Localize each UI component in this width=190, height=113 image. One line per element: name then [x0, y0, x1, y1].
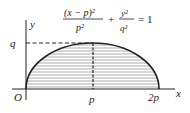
equation-equals-one: = 1	[138, 13, 152, 25]
equation-plus: +	[108, 13, 114, 25]
ellipse-area-diagram: y x O q p 2p (x − p)² p² + y² q² = 1	[0, 0, 190, 113]
equation-denominator-1: p²	[75, 22, 85, 33]
equation-numerator-1: (x − p)²	[64, 7, 96, 19]
equation-denominator-2: q²	[120, 23, 128, 33]
q-label: q	[10, 37, 16, 49]
hatched-region	[20, 45, 170, 87]
x-axis-label: x	[175, 87, 181, 99]
y-axis-label: y	[29, 18, 35, 30]
ellipse-equation: (x − p)² p² + y² q² = 1	[63, 7, 152, 33]
p-label: p	[88, 93, 95, 105]
two-p-label: 2p	[148, 91, 160, 103]
origin-label: O	[14, 91, 22, 103]
equation-numerator-2: y²	[120, 8, 128, 18]
